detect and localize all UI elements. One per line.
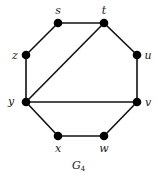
edge-z-s [26, 23, 58, 55]
node-label-y: y [7, 95, 15, 108]
edge-t-u [104, 23, 137, 55]
node-w [100, 132, 109, 141]
edge-y-t [26, 23, 104, 102]
graph-caption: G4 [72, 159, 86, 173]
edge-v-w [104, 102, 137, 136]
node-label-v: v [145, 96, 152, 109]
node-z [22, 51, 31, 60]
edges [26, 23, 137, 136]
node-s [54, 19, 63, 28]
node-label-u: u [144, 49, 151, 62]
node-label-w: w [99, 142, 109, 155]
node-label-t: t [102, 4, 107, 17]
graph-g4: stzuyvxw G4 [0, 0, 157, 178]
node-v [133, 98, 142, 107]
node-label-s: s [55, 4, 61, 17]
node-t [100, 19, 109, 28]
node-label-x: x [55, 142, 62, 155]
graph-figure: stzuyvxw G4 [0, 0, 157, 178]
node-labels: stzuyvxw [7, 4, 152, 155]
nodes [22, 19, 142, 141]
node-y [22, 98, 31, 107]
node-x [54, 132, 63, 141]
edge-x-y [26, 102, 58, 136]
node-label-z: z [11, 49, 18, 62]
node-u [133, 51, 142, 60]
